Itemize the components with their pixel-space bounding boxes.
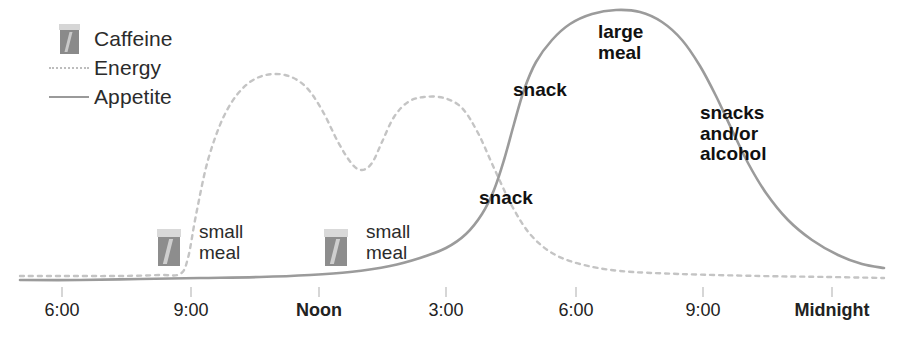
chart-legend: Caffeine Energy Appetite <box>44 24 254 111</box>
x-axis-label: 9:00 <box>173 300 208 321</box>
chart-annotation: snacks and/or alcohol <box>700 103 767 165</box>
legend-label-energy: Energy <box>94 56 161 80</box>
x-axis-label: Noon <box>296 300 342 321</box>
legend-label-appetite: Appetite <box>94 85 172 109</box>
chart-annotation: small meal <box>199 222 243 263</box>
caffeine-energy-appetite-chart: Caffeine Energy Appetite small mealsmall… <box>0 0 923 342</box>
solid-line-icon <box>44 96 94 98</box>
dashed-line-icon <box>44 67 94 69</box>
chart-annotation: snack <box>479 188 533 209</box>
coffee-cup-icon <box>157 229 181 266</box>
x-axis-label: 9:00 <box>685 300 720 321</box>
x-axis-label: 6:00 <box>44 300 79 321</box>
legend-item-appetite: Appetite <box>44 82 254 111</box>
x-axis-label: 3:00 <box>428 300 463 321</box>
chart-annotation: small meal <box>366 222 410 263</box>
coffee-cup-icon <box>44 24 94 54</box>
legend-item-energy: Energy <box>44 53 254 82</box>
coffee-cup-icon <box>324 229 348 266</box>
x-axis-label: 6:00 <box>558 300 593 321</box>
chart-annotation: large meal <box>598 22 643 63</box>
legend-label-caffeine: Caffeine <box>94 27 173 51</box>
axis-tickmarks <box>62 287 832 297</box>
x-axis-label: Midnight <box>795 300 870 321</box>
chart-annotation: snack <box>513 80 567 101</box>
legend-item-caffeine: Caffeine <box>44 24 254 53</box>
